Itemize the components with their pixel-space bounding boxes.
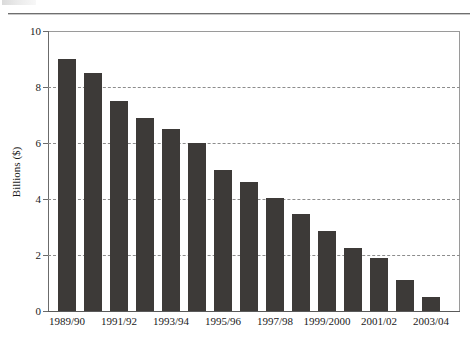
x-tick-label-1997-98: 1997/98: [257, 316, 293, 327]
chart-figure: Billions ($) 0246810 1989/901991/921993/…: [0, 0, 476, 348]
x-axis-label-layer: 1989/901991/921993/941995/961997/981999/…: [48, 316, 460, 336]
bar-1992/93: [136, 118, 154, 311]
bar-2003/04: [422, 297, 440, 311]
y-axis-line: [48, 31, 49, 312]
y-tick-10: [43, 31, 48, 32]
bar-1991/92: [110, 101, 128, 311]
x-tick-label-2001-02: 2001/02: [361, 316, 397, 327]
x-tick-label-1989-90: 1989/90: [49, 316, 85, 327]
y-tick-0: [43, 311, 48, 312]
bar-1993/94: [162, 129, 180, 311]
y-tick-label-4: 4: [36, 194, 42, 205]
bar-1998/99: [292, 214, 310, 311]
x-tick-label-1995-96: 1995/96: [205, 316, 241, 327]
x-tick-label-2003-04: 2003/04: [413, 316, 449, 327]
plot-area: 0246810: [48, 31, 460, 312]
plot-frame-right: [459, 31, 460, 312]
bar-2000/01: [344, 248, 362, 311]
y-tick-2: [43, 255, 48, 256]
bar-1996/97: [240, 182, 258, 311]
y-tick-label-10: 10: [30, 26, 41, 37]
x-tick-label-1999-2000: 1999/2000: [303, 316, 350, 327]
bar-1990/91: [84, 73, 102, 311]
bar-1989/90: [58, 59, 76, 311]
y-tick-label-8: 8: [36, 82, 42, 93]
bar-1995/96: [214, 170, 232, 311]
bar-1999/2000: [318, 231, 336, 311]
scan-artifact: [2, 0, 36, 5]
y-tick-label-0: 0: [36, 306, 42, 317]
x-tick-label-1991-92: 1991/92: [101, 316, 137, 327]
plot-frame-top: [48, 31, 460, 32]
y-tick-8: [43, 87, 48, 88]
gridline-y-8: [48, 87, 460, 88]
bar-1997/98: [266, 198, 284, 311]
x-tick-label-1993-94: 1993/94: [153, 316, 189, 327]
bar-2002/03: [396, 280, 414, 311]
y-tick-6: [43, 143, 48, 144]
y-axis-title: Billions ($): [10, 146, 22, 196]
y-axis-title-container: Billions ($): [12, 31, 26, 312]
bar-1994/95: [188, 143, 206, 311]
y-tick-label-6: 6: [36, 138, 42, 149]
y-tick-label-2: 2: [36, 250, 42, 261]
bar-2001/02: [370, 258, 388, 311]
top-divider-rule-shadow: [8, 14, 470, 15]
y-tick-4: [43, 199, 48, 200]
x-axis-line: [48, 311, 460, 312]
